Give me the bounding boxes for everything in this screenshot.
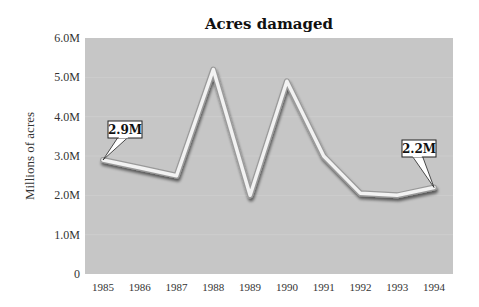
y-tick-label: 4.0M <box>54 110 80 124</box>
y-tick-label: 2.0M <box>54 188 80 202</box>
y-axis-ticks: 01.0M2.0M3.0M4.0M5.0M6.0M <box>54 31 80 281</box>
chart: Acres damaged 01.0M2.0M3.0M4.0M5.0M6.0M … <box>0 0 479 307</box>
y-tick-label: 5.0M <box>54 70 80 84</box>
y-tick-label: 0 <box>74 267 80 281</box>
callout-label: 2.9M <box>108 123 142 137</box>
callout-label: 2.2M <box>402 142 436 156</box>
y-tick-label: 6.0M <box>54 31 80 45</box>
x-tick-label: 1993 <box>386 281 409 293</box>
x-tick-label: 1986 <box>129 281 152 293</box>
x-tick-label: 1988 <box>202 281 225 293</box>
x-tick-label: 1990 <box>276 281 299 293</box>
x-tick-label: 1992 <box>349 281 371 293</box>
x-tick-label: 1991 <box>313 281 335 293</box>
y-axis-label: Millions of acres <box>22 112 37 200</box>
y-tick-label: 1.0M <box>54 228 80 242</box>
x-tick-label: 1994 <box>423 281 446 293</box>
chart-title: Acres damaged <box>204 15 334 33</box>
y-tick-label: 3.0M <box>54 149 80 163</box>
x-tick-label: 1989 <box>239 281 262 293</box>
x-axis-ticks: 1985198619871988198919901991199219931994 <box>92 281 446 293</box>
x-tick-label: 1987 <box>166 281 189 293</box>
x-tick-label: 1985 <box>92 281 115 293</box>
